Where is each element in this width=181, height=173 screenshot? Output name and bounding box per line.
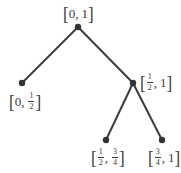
edge-root-right [78,27,133,83]
node-left [19,80,25,86]
open-bracket: [ [140,73,146,93]
numerator: 1 [98,148,104,158]
edge-right-rightleft [106,83,133,140]
comma: , [75,7,78,20]
close-bracket: ] [88,4,94,24]
node-right-right [159,137,165,143]
node-right-left [103,137,109,143]
edge-root-left [22,27,78,83]
close-bracket: ] [119,148,125,168]
fraction: 12 [28,92,34,111]
numerator: 3 [112,148,118,158]
label-right: [ 12, 1 ] [140,73,172,92]
denominator: 4 [113,158,117,167]
fraction: 12 [98,148,104,167]
open-bracket: [ [9,92,15,112]
comma: , [162,151,165,164]
comma: , [21,95,24,108]
open-bracket: [ [148,148,154,168]
comma: , [154,76,157,89]
close-bracket: ] [166,73,172,93]
open-bracket: [ [91,148,97,168]
comma: , [105,151,108,164]
close-bracket: ] [174,148,180,168]
denominator: 2 [99,158,103,167]
node-right [130,80,136,86]
label-root: [ 0, 1 ] [63,5,94,22]
node-root [75,24,81,30]
label-right-right: [ 34, 1 ] [148,148,180,167]
fraction: 34 [112,148,118,167]
fraction: 34 [155,148,161,167]
denominator: 2 [148,83,152,92]
denominator: 2 [29,102,33,111]
fraction: 12 [147,73,153,92]
label-right-left: [ 12, 34 ] [91,148,125,167]
denominator: 4 [156,158,160,167]
label-left: [ 0, 12 ] [9,92,41,111]
numerator: 3 [155,148,161,158]
close-bracket: ] [35,92,41,112]
numerator: 1 [28,92,34,102]
open-bracket: [ [63,4,69,24]
numerator: 1 [147,73,153,83]
